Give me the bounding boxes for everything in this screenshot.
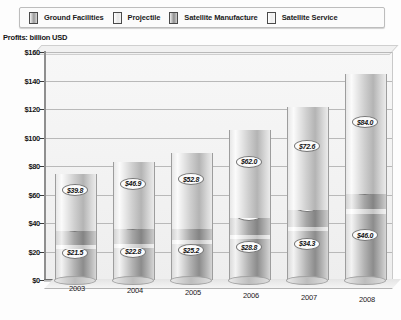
bar-segment-2008-1[interactable] [345, 209, 387, 215]
bar-segment-2005-1[interactable] [171, 240, 213, 244]
bar-segment-2008-3[interactable] [345, 74, 387, 194]
data-label-2005-0: $25.2 [178, 244, 204, 256]
legend-swatch-satellite-manufacture [169, 12, 178, 24]
legend-swatch-satellite-service [267, 12, 276, 24]
bar-segment-2006-1[interactable] [229, 235, 271, 239]
bar-segment-2005-2[interactable] [171, 229, 213, 240]
legend-swatch-ground-facilities [29, 12, 38, 24]
y-axis-tick-label: $100 [0, 134, 40, 143]
bar-segment-2008-2[interactable] [345, 194, 387, 209]
y-axis-tick-label: $120 [0, 105, 40, 114]
data-label-2007-0: $34.3 [294, 238, 320, 250]
x-axis-label-2006: 2006 [221, 291, 281, 300]
cylinder-top-2007 [286, 276, 328, 285]
x-axis-label-2005: 2005 [163, 288, 223, 297]
bar-segment-2006-3[interactable] [229, 130, 271, 218]
bar-segment-2007-1[interactable] [287, 227, 329, 232]
legend-label: Projectile [128, 13, 161, 22]
data-label-2008-3: $84.0 [352, 116, 378, 128]
data-label-2003-3: $39.8 [62, 184, 88, 196]
bar-segment-2003-1[interactable] [55, 245, 97, 250]
bar-series-group: $21.5$3.2$9.8$39.8$22.8$2.8$10.2$46.9$25… [44, 52, 392, 280]
x-axis-label-2007: 2007 [279, 293, 339, 302]
bar-segment-2003-2[interactable] [55, 231, 97, 245]
bar-segment-2006-2[interactable] [229, 218, 271, 235]
y-axis-tick-label: $60 [0, 191, 40, 200]
cylinder-top-2004 [112, 276, 154, 285]
x-axis-label-2004: 2004 [105, 286, 165, 295]
y-axis-title: Profits: billion USD [3, 33, 67, 42]
bar-segment-2004-3[interactable] [113, 162, 155, 229]
bar-segment-2005-3[interactable] [171, 153, 213, 228]
legend-label: Satellite Service [282, 13, 338, 22]
chart-legend: Ground FacilitiesProjectileSatellite Man… [19, 7, 385, 28]
cylinder-top-2006 [228, 276, 270, 285]
y-axis-tick-label: $160 [0, 48, 40, 57]
cylinder-top-2008 [344, 276, 386, 285]
legend-item-1[interactable]: Projectile [104, 8, 161, 27]
legend-label: Ground Facilities [44, 13, 104, 22]
y-axis-tick-label: $80 [0, 162, 40, 171]
plot-area: $160$140$120$100$80$60$40$20$0 $21.5$3.2… [44, 52, 392, 280]
bar-segment-2008-0[interactable] [345, 214, 387, 280]
x-axis-label-2003: 2003 [47, 284, 107, 293]
bar-segment-2004-2[interactable] [113, 229, 155, 244]
bar-segment-2004-1[interactable] [113, 244, 155, 248]
y-axis-tick-label: $20 [0, 248, 40, 257]
legend-item-0[interactable]: Ground Facilities [20, 8, 104, 27]
bar-segment-2007-3[interactable] [287, 107, 329, 210]
data-label-2006-3: $62.0 [236, 156, 262, 168]
bar-segment-2003-3[interactable] [55, 174, 97, 231]
data-label-2008-0: $46.0 [352, 229, 378, 241]
legend-swatch-projectile [113, 12, 122, 24]
bar-segment-2007-2[interactable] [287, 210, 329, 227]
legend-item-2[interactable]: Satellite Manufacture [160, 8, 257, 27]
legend-item-3[interactable]: Satellite Service [258, 8, 338, 27]
y-axis-tick-label: $140 [0, 77, 40, 86]
data-label-2004-0: $22.8 [120, 246, 146, 258]
cylinder-top-2005 [170, 276, 212, 285]
y-axis-tick-label: $40 [0, 219, 40, 228]
data-label-2005-3: $52.8 [178, 173, 204, 185]
y-axis-tick [40, 280, 44, 281]
data-label-2007-3: $72.6 [294, 140, 320, 152]
data-label-2006-0: $28.8 [236, 241, 262, 253]
x-axis-label-2008: 2008 [337, 295, 397, 304]
y-axis-tick-label: $0 [0, 276, 40, 285]
data-label-2004-3: $46.9 [120, 178, 146, 190]
legend-label: Satellite Manufacture [184, 13, 257, 22]
